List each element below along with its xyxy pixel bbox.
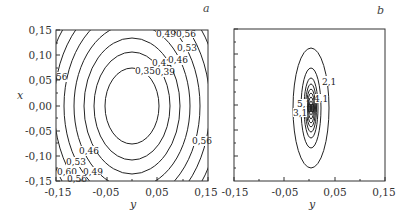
panel-b: b 2,1 4,1 5,1 3,1 — [222, 4, 396, 211]
svg-text:0,05: 0,05 — [29, 74, 52, 86]
svg-text:-0,10: -0,10 — [25, 150, 52, 162]
panel-a-xtick-labels: -0,15 -0,05 0,05 0,15 — [45, 186, 218, 198]
svg-text:0,53: 0,53 — [66, 157, 86, 167]
svg-text:0,46: 0,46 — [168, 55, 188, 65]
panel-a-label: a — [203, 2, 210, 15]
svg-text:-0,15: -0,15 — [222, 186, 249, 198]
svg-text:-0,05: -0,05 — [93, 186, 120, 198]
svg-text:-0,05: -0,05 — [25, 125, 52, 137]
panel-b-xticks — [234, 177, 385, 181]
panel-a-yticks — [56, 30, 60, 181]
svg-text:0,35: 0,35 — [135, 66, 155, 76]
panel-a-ylabel: x — [17, 89, 24, 102]
panel-b-xtick-labels: -0,15 -0,05 0,05 0,15 — [222, 186, 396, 198]
svg-text:0,15: 0,15 — [29, 24, 52, 36]
panel-a-xlabel: y — [129, 198, 137, 211]
panel-a-contour-labels: 0,49 0,56 0,53 0,42 0,46 0,35 0,39 56 0,… — [56, 28, 212, 184]
svg-text:0,05: 0,05 — [145, 186, 168, 198]
svg-text:0,05: 0,05 — [323, 186, 346, 198]
svg-text:0,56: 0,56 — [192, 136, 212, 146]
svg-text:2,1: 2,1 — [322, 77, 336, 87]
svg-text:0,15: 0,15 — [372, 186, 395, 198]
svg-text:0,56: 0,56 — [67, 174, 87, 184]
svg-text:-0,05: -0,05 — [272, 186, 299, 198]
svg-text:4,1: 4,1 — [314, 94, 328, 104]
svg-text:0,53: 0,53 — [177, 43, 197, 53]
svg-text:0,39: 0,39 — [155, 67, 175, 77]
panel-b-label: b — [377, 4, 384, 17]
svg-text:3,1: 3,1 — [293, 108, 307, 118]
panel-b-yticks — [234, 29, 238, 168]
figure: a 0,49 0,56 0,53 0,42 — [0, 0, 417, 215]
svg-text:0,46: 0,46 — [79, 146, 99, 156]
svg-text:0,10: 0,10 — [29, 49, 52, 61]
panel-a: a 0,49 0,56 0,53 0,42 — [0, 0, 280, 215]
panel-a-ytick-labels: 0,15 0,10 0,05 0,00 -0,05 -0,10 -0,15 — [25, 24, 52, 187]
svg-text:0,15: 0,15 — [194, 186, 217, 198]
panel-b-xlabel: y — [308, 198, 316, 211]
svg-text:-0,15: -0,15 — [45, 186, 72, 198]
svg-text:0,00: 0,00 — [29, 100, 52, 112]
